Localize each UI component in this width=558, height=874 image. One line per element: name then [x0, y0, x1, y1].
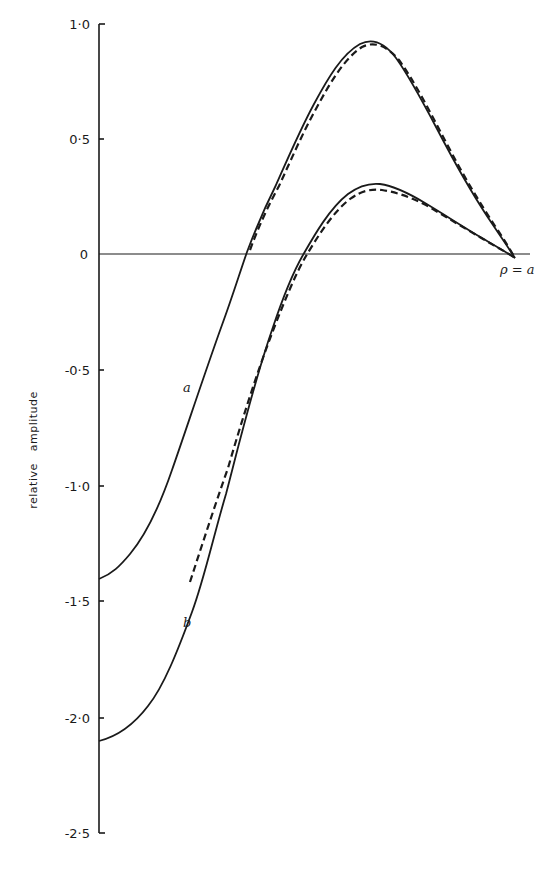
curve-b-dashed — [190, 190, 515, 582]
tick-label: -1·0 — [65, 479, 90, 494]
y-axis — [99, 24, 105, 833]
y-axis-label: relative amplitude — [27, 391, 40, 509]
chart: 1·0 0·5 0 -0·5 -1·0 -1·5 -2·0 -2·5 relat… — [0, 0, 558, 874]
tick-label: 1·0 — [69, 17, 90, 32]
rho-equals-a-label: ρ = a — [499, 262, 535, 277]
curve-a-solid — [99, 41, 515, 579]
tick-label: -1·5 — [65, 594, 90, 609]
curve-a-label: a — [183, 380, 191, 395]
curve-a-dashed — [250, 44, 515, 258]
curve-b-label: b — [183, 615, 191, 630]
tick-label: 0·5 — [69, 132, 90, 147]
y-tick-labels: 1·0 0·5 0 -0·5 -1·0 -1·5 -2·0 -2·5 — [65, 17, 90, 841]
tick-label: 0 — [80, 247, 88, 262]
tick-label: -2·0 — [65, 711, 90, 726]
curve-b-solid — [99, 184, 515, 741]
tick-label: -2·5 — [65, 826, 90, 841]
tick-label: -0·5 — [65, 363, 90, 378]
